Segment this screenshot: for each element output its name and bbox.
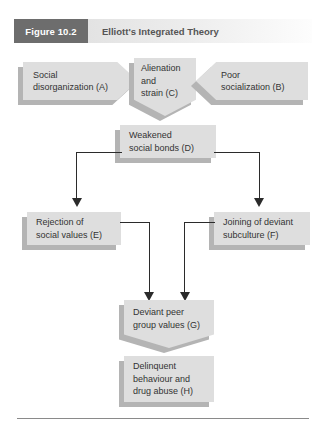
node-label-line1: Poor (221, 69, 308, 82)
node-label-line1: Alienation (141, 62, 196, 75)
node-label-line2: disorganization (A) (33, 81, 138, 94)
connector-d-to-e-horizontal (76, 152, 122, 153)
node-label: Joining of deviant subculture (F) (214, 212, 310, 245)
node-label: Weakened social bonds (D) (120, 125, 216, 158)
node-poor-socialization: Poor socialization (B) (196, 62, 308, 100)
node-social-disorganization: Social disorganization (A) (23, 62, 138, 100)
node-rejection-social-values: Rejection of social values (E) (27, 212, 121, 245)
connector-d-to-e-vertical (76, 152, 77, 200)
node-label-line1: Weakened (129, 129, 216, 142)
connector-d-to-f-vertical (259, 152, 260, 200)
connector-d-to-f-horizontal (214, 152, 260, 153)
node-deviant-peer-group-values: Deviant peer group values (G) (124, 300, 214, 348)
node-alienation-strain: Alienation and strain (C) (134, 58, 196, 116)
node-label-line2: social bonds (D) (129, 142, 216, 155)
footer-divider (17, 418, 309, 419)
node-label: Poor socialization (B) (196, 62, 308, 100)
node-delinquent-behaviour-drug-abuse: Delinquent behaviour and drug abuse (H) (124, 356, 214, 402)
connector-e-to-g-horizontal (120, 222, 150, 223)
node-label-line1: Delinquent (133, 360, 214, 373)
node-label-line2: behaviour and (133, 373, 214, 386)
node-label-line3: strain (C) (141, 87, 196, 100)
node-label-line2: and (141, 75, 196, 88)
node-label-line1: Social (33, 69, 138, 82)
node-label-line1: Deviant peer (133, 306, 214, 319)
connector-f-to-g-horizontal (184, 222, 215, 223)
figure-number-label: Figure 10.2 (14, 19, 88, 43)
node-label: Deviant peer group values (G) (124, 300, 214, 348)
figure-header: Figure 10.2 Elliott's Integrated Theory (14, 19, 312, 43)
node-label-line2: subculture (F) (223, 229, 310, 242)
node-label-line2: social values (E) (36, 229, 121, 242)
node-label: Alienation and strain (C) (134, 58, 196, 116)
arrowhead-into-e (72, 198, 82, 207)
connector-f-to-g-vertical (184, 222, 185, 294)
node-joining-deviant-subculture: Joining of deviant subculture (F) (214, 212, 310, 245)
node-label: Social disorganization (A) (23, 62, 138, 100)
node-label-line2: socialization (B) (221, 81, 308, 94)
node-label: Rejection of social values (E) (27, 212, 121, 245)
arrowhead-into-f (254, 198, 264, 207)
node-label-line1: Rejection of (36, 216, 121, 229)
node-label: Delinquent behaviour and drug abuse (H) (124, 356, 214, 402)
figure-title: Elliott's Integrated Theory (102, 19, 219, 43)
node-label-line3: drug abuse (H) (133, 385, 214, 398)
node-label-line2: group values (G) (133, 319, 214, 332)
node-weakened-social-bonds: Weakened social bonds (D) (120, 125, 216, 158)
node-label-line1: Joining of deviant (223, 216, 310, 229)
figure-panel: Figure 10.2 Elliott's Integrated Theory … (0, 0, 326, 439)
connector-e-to-g-vertical (149, 222, 150, 294)
